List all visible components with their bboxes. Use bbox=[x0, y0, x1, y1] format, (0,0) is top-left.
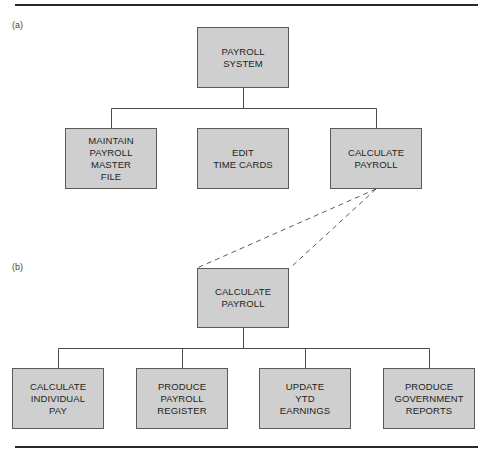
node-calculate-payroll-b: CALCULATE PAYROLL bbox=[197, 268, 289, 328]
node-payroll-system: PAYROLL SYSTEM bbox=[197, 27, 289, 88]
node-produce-government-reports: PRODUCE GOVERNMENT REPORTS bbox=[383, 368, 475, 429]
expansion-dashed-lines bbox=[197, 189, 376, 268]
node-update-ytd-earnings: UPDATE YTD EARNINGS bbox=[259, 368, 351, 429]
node-calculate-individual-pay: CALCULATE INDIVIDUAL PAY bbox=[12, 368, 104, 429]
node-edit-time-cards: EDIT TIME CARDS bbox=[197, 128, 289, 189]
node-maintain-payroll-master-file: MAINTAIN PAYROLL MASTER FILE bbox=[65, 128, 157, 189]
bottom-rule bbox=[15, 446, 478, 448]
panel-a-label: (a) bbox=[12, 20, 23, 30]
node-calculate-payroll-a: CALCULATE PAYROLL bbox=[330, 128, 422, 189]
node-produce-payroll-register: PRODUCE PAYROLL REGISTER bbox=[136, 368, 228, 429]
panel-b-label: (b) bbox=[12, 262, 23, 272]
top-rule bbox=[15, 4, 478, 6]
